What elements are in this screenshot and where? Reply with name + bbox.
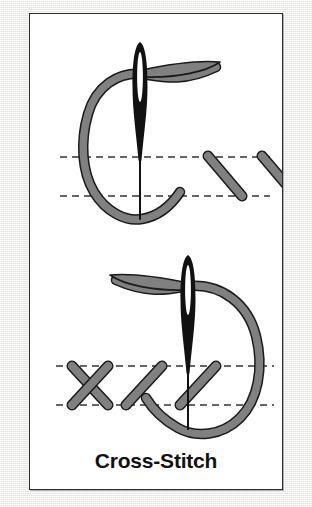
cross-stitch-diagram [30,14,282,444]
needle-eye-icon [137,52,143,102]
panel-step-2 [56,255,274,434]
diagonal-stitch-fill [180,366,216,405]
illustration-card: Cross-Stitch [29,13,283,490]
page-title: Cross-Stitch [30,449,282,473]
panel-step-1 [60,42,282,220]
page-background: Cross-Stitch [0,0,312,507]
diagonal-stitch-fill [208,156,242,196]
needle-eye-icon [185,265,191,315]
